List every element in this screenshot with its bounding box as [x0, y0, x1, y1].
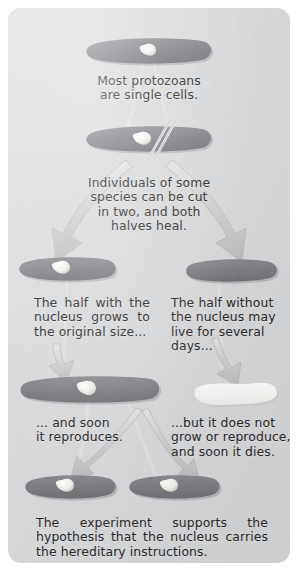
- regrown-cell: [21, 376, 162, 404]
- dying-cell: [195, 383, 279, 407]
- daughter-cell-right: [129, 475, 221, 500]
- caption-reproduces: ... and soon it reproduces.: [36, 416, 148, 445]
- daughter-cell-left: [25, 475, 117, 500]
- caption-cut: Individuals of some species can be cut i…: [50, 176, 248, 234]
- caption-dies: ...but it does not grow or reproduce, an…: [171, 416, 290, 459]
- right-half-without-nucleus: [186, 259, 279, 284]
- whole-protozoan: [87, 38, 214, 65]
- protozoan-being-cut: [87, 120, 214, 160]
- figure-panel: Most protozoans are single cells. Indivi…: [8, 8, 290, 563]
- caption-intro: Most protozoans are single cells.: [56, 74, 242, 103]
- caption-conclusion: The experiment supports the hypothesis t…: [36, 516, 268, 559]
- caption-half-with-nucleus: The half with the nucleus grows to the o…: [34, 296, 150, 339]
- caption-half-without-nucleus: The half without the nucleus may live fo…: [171, 296, 289, 354]
- left-half-with-nucleus: [19, 257, 117, 282]
